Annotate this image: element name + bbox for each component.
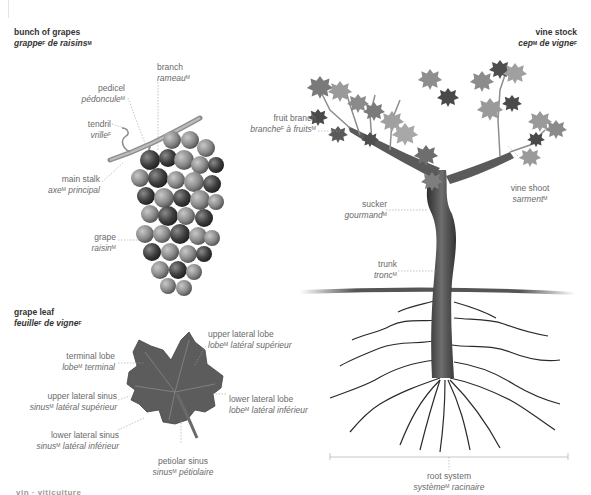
label-upper-lateral-lobe: upper lateral lobe lobeM latéral supérie… [208,329,292,350]
label-grape: grape raisinM [92,232,116,253]
label-main-stalk: main stalk axeM principal [48,174,100,195]
cut-off-footer-text: vin · viticulture [16,488,81,495]
label-terminal-lobe: terminal lobe lobeM terminal [62,351,115,372]
illustration-canvas [0,0,591,495]
label-petiolar-sinus: petiolar sinus sinusM pétiolaire [148,456,218,477]
label-fruit-branch: fruit branch brancheF à fruitsM [250,113,316,134]
label-tendril: tendril vrilleF [88,119,111,140]
label-branch: branch rameauM [157,62,190,83]
label-root-system: root system systèmeM racinaire [404,471,494,492]
label-trunk: trunk troncM [374,259,397,280]
title-bunch-of-grapes: bunch of grapes grappeF de raisinsM [14,27,92,48]
title-grape-leaf: grape leaf feuilleF de vigneF [14,307,82,328]
vine-stock-illustration [300,60,575,470]
label-pedicel: pedicel pédonculeM [82,83,125,104]
label-lower-lateral-lobe: lower lateral lobe lobeM latéral inférie… [229,394,308,415]
grape-bunch-illustration [102,82,224,296]
label-upper-lateral-sinus: upper lateral sinus sinusM latéral supér… [30,391,117,412]
label-vine-shoot: vine shoot sarmentM [500,183,560,204]
label-lower-lateral-sinus: lower lateral sinus sinusM latéral infér… [36,430,119,451]
title-vine-stock: vine stock cepM de vigneF [518,27,577,48]
label-sucker: sucker gourmandM [345,199,387,220]
